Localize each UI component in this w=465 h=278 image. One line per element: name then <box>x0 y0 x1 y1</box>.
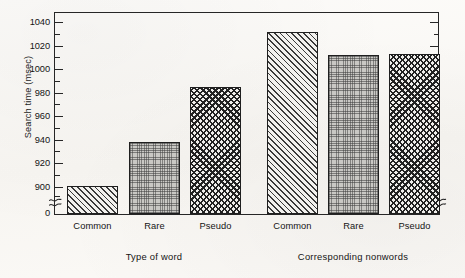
y-tick-label-980: 980 <box>16 89 50 98</box>
y-tick-right-1040 <box>430 22 439 23</box>
y-tick-minor-1010 <box>54 57 60 58</box>
y-tick-major-1040 <box>54 22 63 23</box>
x-tick-label-pseudo-word: Pseudo <box>173 221 259 231</box>
y-tick-label-960: 960 <box>16 112 50 121</box>
bar-pseudo-nonword[interactable] <box>389 54 440 214</box>
group-label-type-of-word: Type of word <box>54 251 254 262</box>
y-tick-major-960 <box>54 116 63 117</box>
y-tick-major-1020 <box>54 46 63 47</box>
bar-common-word[interactable] <box>67 186 118 214</box>
y-tick-label-1000: 1000 <box>16 65 50 74</box>
y-tick-major-940 <box>54 140 63 141</box>
y-tick-major-980 <box>54 93 63 94</box>
y-tick-minor-990 <box>54 81 60 82</box>
y-tick-label-900: 900 <box>16 183 50 192</box>
y-tick-label-940: 940 <box>16 136 50 145</box>
y-tick-major-920 <box>54 163 63 164</box>
y-tick-minor-930 <box>54 151 60 152</box>
y-tick-label-zero: 0 <box>16 209 50 218</box>
bar-rare-word[interactable] <box>129 142 180 214</box>
y-tick-minor-890 <box>54 196 60 197</box>
y-tick-minor-950 <box>54 128 60 129</box>
x-axis-baseline <box>54 214 440 215</box>
y-tick-label-1020: 1020 <box>16 42 50 51</box>
y-tick-major-1000 <box>54 69 63 70</box>
y-tick-minor-970 <box>54 104 60 105</box>
y-tick-minor-910 <box>54 175 60 176</box>
y-tick-right-1020 <box>430 46 439 47</box>
y-axis-tick-labels: 1040 1020 1000 980 960 940 920 900 0 <box>12 0 50 278</box>
y-tick-minor-1030 <box>54 34 60 35</box>
chart-figure: Search time (msec) 1040 1020 1000 980 96… <box>0 0 465 278</box>
group-label-corresponding-nonwords: Corresponding nonwords <box>253 251 453 262</box>
bar-rare-nonword[interactable] <box>328 55 379 214</box>
y-tick-label-1040: 1040 <box>16 18 50 27</box>
y-tick-label-920: 920 <box>16 159 50 168</box>
y-tick-major-900 <box>54 187 63 188</box>
plot-area-frame <box>54 12 439 215</box>
y-tick-right-1030 <box>434 34 440 35</box>
bar-pseudo-word[interactable] <box>190 87 241 214</box>
bar-common-nonword[interactable] <box>267 32 318 214</box>
x-tick-label-pseudo-nonword: Pseudo <box>372 221 458 231</box>
